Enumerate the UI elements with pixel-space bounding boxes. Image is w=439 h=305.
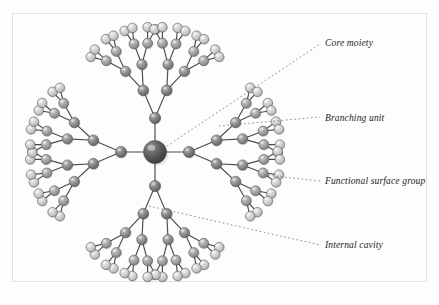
sphere-highlight [252,110,255,113]
sphere-highlight [232,119,236,122]
sphere-body [42,126,52,136]
sphere-highlight [140,87,144,90]
leader-internal-cavity [149,206,320,245]
sphere-highlight [121,28,124,31]
sphere-body [138,208,149,219]
sphere-body [230,176,240,186]
sphere-body [259,154,269,164]
sphere-highlight [71,119,75,122]
sphere-highlight [49,209,52,212]
dendrimer-node-generation-5 [34,189,44,200]
sphere-highlight [51,110,54,113]
sphere-highlight [36,107,39,110]
dendrimer-node-generation-3 [137,59,148,70]
sphere-highlight [159,40,162,43]
dendrimer-node-generation-3 [163,234,174,245]
sphere-highlight [265,198,268,201]
sphere-highlight [90,137,94,140]
sphere-highlight [232,178,236,181]
sphere-highlight [261,156,264,159]
sphere-highlight [129,25,132,28]
sphere-body [88,158,99,169]
sphere-highlight [138,61,142,64]
sphere-highlight [144,40,147,43]
sphere-body [271,178,281,188]
dendrimer-node-generation-2 [88,135,100,147]
sphere-highlight [239,136,243,139]
dendrimer-node-generation-5 [275,155,285,166]
dendrimer-node-generation-3 [62,134,73,145]
sphere-highlight [92,47,95,50]
dendrimer-node-generation-3 [120,227,131,238]
dendrimer-node-generation-4 [189,248,200,259]
sphere-highlight [190,249,193,252]
sphere-highlight [185,148,189,151]
dendrimer-node-generation-3 [69,117,80,128]
sphere-body [245,211,255,221]
dendrimer-node-generation-3 [163,59,174,70]
sphere-body [137,59,147,69]
sphere-highlight [174,273,177,276]
sphere-body [143,256,153,266]
sphere-highlight [212,47,215,50]
sphere-body [192,264,202,274]
sphere-body [90,45,100,55]
sphere-body [163,59,173,69]
sphere-body [137,234,147,244]
dendrimer-node-generation-3 [120,66,131,77]
sphere-body [258,126,268,136]
dendrimer-diagram [0,0,439,305]
dendrimer-node-generation-5 [267,106,277,117]
dendrimer-node-generation-4 [171,255,182,266]
dendrimer-node-generation-1 [183,146,195,158]
sphere-body [251,108,261,118]
sphere-highlight [163,87,167,90]
sphere-highlight [103,36,106,39]
sphere-highlight [122,229,126,232]
sphere-body [171,39,181,49]
sphere-body [157,256,167,266]
sphere-highlight [193,33,196,36]
dendrimer-node-generation-4 [251,186,262,197]
sphere-body [237,134,247,144]
sphere-highlight [265,100,268,103]
sphere-body [120,268,130,278]
sphere-highlight [140,210,144,213]
sphere-highlight [49,89,52,92]
sphere-body [157,38,167,48]
label-functional-surface-group: Functional surface group [325,176,425,186]
sphere-highlight [113,249,116,252]
dendrimer-node-generation-5 [26,170,36,181]
sphere-body [26,170,36,180]
sphere-body [210,250,220,260]
sphere-body [275,155,285,165]
dendrimer-node-generation-4 [143,38,154,49]
sphere-highlight [138,236,142,239]
sphere-highlight [268,190,271,193]
sphere-highlight [43,141,46,144]
sphere-body [129,255,139,265]
sphere-body [149,112,160,123]
dendrimer-node-generation-4 [241,196,252,207]
sphere-body [143,272,153,282]
sphere-body [88,135,99,146]
dendrimer-node-generation-4 [157,256,168,267]
sphere-highlight [260,170,263,173]
sphere-body [274,125,284,135]
sphere-highlight [182,270,185,273]
sphere-body [189,248,199,258]
sphere-body [253,87,263,97]
sphere-body [129,39,139,49]
dendrimer-node-generation-4 [189,46,200,57]
sphere-highlight [144,258,147,261]
sphere-body [149,180,160,191]
sphere-highlight [239,162,243,165]
sphere-body [120,66,130,76]
dendrimer-node-generation-5 [120,268,130,279]
sphere-body [241,98,251,108]
sphere-body [199,34,209,44]
dendrimer-node-generation-5 [214,52,224,63]
label-branching-unit: Branching unit [325,113,384,123]
sphere-body [41,154,51,164]
sphere-highlight [152,272,155,275]
